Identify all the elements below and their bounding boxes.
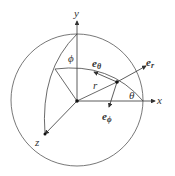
radius-label: r — [93, 79, 98, 91]
diagram-canvas: y x z ϕ θ r eθ er eϕ — [0, 0, 175, 176]
e-r-label: er — [146, 56, 155, 70]
e-r-vector — [117, 66, 146, 82]
spherical-coordinates-diagram: y x z ϕ θ r eθ er eϕ — [0, 0, 175, 176]
theta-angle-label: θ — [129, 89, 135, 101]
projection-line — [55, 69, 77, 101]
meridian-arc — [44, 34, 77, 134]
e-theta-label: eθ — [92, 57, 102, 71]
y-axis-label: y — [73, 7, 79, 19]
p-point — [115, 80, 119, 84]
phi-angle-label: ϕ — [68, 52, 74, 64]
z-axis — [45, 101, 77, 134]
z-point — [44, 133, 47, 136]
origin-point — [75, 99, 79, 103]
e-phi-label: eϕ — [102, 110, 112, 124]
z-axis-label: z — [34, 136, 40, 148]
e-phi-vector — [109, 82, 117, 107]
x-axis-label: x — [156, 94, 162, 106]
